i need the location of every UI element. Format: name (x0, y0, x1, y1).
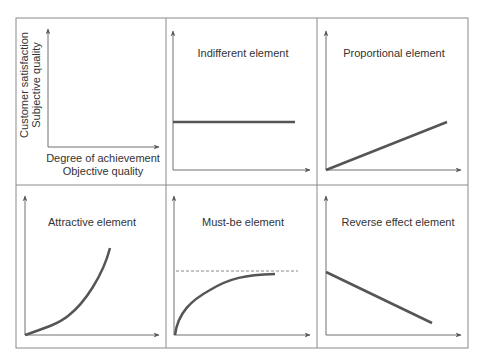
must-be-panel: Must-be element (174, 196, 310, 335)
attractive-curve (25, 248, 110, 335)
proportional-panel: Proportional element (326, 31, 461, 170)
proportional-curve (326, 122, 447, 170)
y-axis-label-2: Subjective quality (30, 42, 42, 128)
reverse-effect-curve (326, 272, 432, 323)
x-axis-label-2: Objective quality (63, 165, 144, 177)
reverse-effect-panel: Reverse effect element (326, 196, 461, 335)
panel-title: Indifferent element (198, 47, 289, 59)
panel-title: Attractive element (48, 216, 136, 228)
axis-legend-panel: Customer satisfaction Subjective quality… (18, 29, 160, 177)
panel-title: Reverse effect element (342, 216, 455, 228)
kano-model-diagram: Customer satisfaction Subjective quality… (0, 0, 485, 363)
x-axis-label-1: Degree of achievement (46, 152, 160, 164)
panel-title: Proportional element (343, 47, 445, 59)
indifferent-panel: Indifferent element (173, 31, 310, 170)
must-be-curve (175, 274, 275, 335)
y-axis-label-1: Customer satisfaction (18, 32, 30, 138)
panel-title: Must-be element (202, 216, 284, 228)
attractive-panel: Attractive element (25, 196, 159, 335)
